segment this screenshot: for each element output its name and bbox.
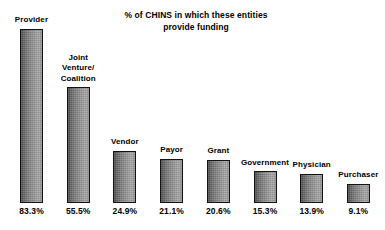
bar-category-label-line: Vendor [111, 137, 139, 148]
bar-provider[interactable] [20, 29, 43, 203]
bar-category-label: Purchaser [338, 170, 378, 181]
bar-vendor[interactable] [113, 151, 136, 203]
bar-value-label: 9.1% [349, 206, 369, 216]
bar-category-label: Government [241, 158, 289, 169]
bar-payor[interactable] [160, 159, 183, 203]
bar-value-label: 83.3% [19, 206, 44, 216]
plot-area: Provider83.3%JointVenture/Coalition55.5%… [0, 0, 385, 230]
bar-category-label-line: Joint [61, 53, 96, 64]
bar-value-label: 24.9% [113, 206, 138, 216]
bar-category-label: Physician [293, 160, 331, 171]
bar-value-label: 21.1% [159, 206, 184, 216]
bar-category-label: Grant [207, 146, 229, 157]
bar-chart: % of CHINS in which these entities provi… [0, 0, 385, 230]
bar-category-label-line: Venture/ [61, 63, 96, 74]
bar-category-label-line: Payor [160, 145, 183, 156]
bar-value-label: 55.5% [66, 206, 91, 216]
bar-category-label: JointVenture/Coalition [61, 53, 96, 85]
bar-category-label: Provider [15, 15, 48, 26]
bar-category-label-line: Government [241, 158, 289, 169]
bar-category-label-line: Grant [207, 146, 229, 157]
bar-category-label-line: Physician [293, 160, 331, 171]
bar-value-label: 20.6% [206, 206, 231, 216]
bar-value-label: 15.3% [253, 206, 278, 216]
bar-category-label-line: Coalition [61, 74, 96, 85]
bar-value-label: 13.9% [299, 206, 324, 216]
bar-grant[interactable] [207, 160, 230, 203]
bar-category-label: Vendor [111, 137, 139, 148]
bar-purchaser[interactable] [347, 184, 370, 203]
bar-category-label: Payor [160, 145, 183, 156]
bar-joint-venture-coalition[interactable] [67, 87, 90, 203]
bar-physician[interactable] [300, 174, 323, 203]
bar-category-label-line: Purchaser [338, 170, 378, 181]
bar-government[interactable] [254, 171, 277, 203]
bar-category-label-line: Provider [15, 15, 48, 26]
